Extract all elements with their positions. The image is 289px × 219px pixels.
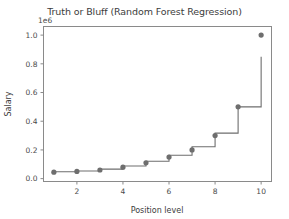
x-tick-label: 8 <box>213 187 218 196</box>
data-point <box>51 170 56 175</box>
x-tick-label: 2 <box>75 187 80 196</box>
regression-step-line <box>54 57 261 172</box>
y-tick-label: 1.0 <box>26 31 38 40</box>
axes-spines <box>44 27 272 182</box>
y-tick-label: 0.6 <box>26 88 38 97</box>
x-axis-title: Position level <box>131 206 184 215</box>
data-point <box>166 155 171 160</box>
y-axis-title: Salary <box>4 91 13 116</box>
data-point <box>143 160 148 165</box>
axes-frame <box>44 27 272 182</box>
x-axis-ticks: 246810 <box>75 182 267 196</box>
y-tick-label: 0.0 <box>26 174 38 183</box>
data-point <box>212 133 217 138</box>
y-tick-label: 0.4 <box>26 117 38 126</box>
data-point <box>236 104 241 109</box>
data-point <box>120 165 125 170</box>
y-tick-label: 0.8 <box>26 60 38 69</box>
x-tick-label: 4 <box>121 187 126 196</box>
x-tick-label: 6 <box>167 187 172 196</box>
y-axis-ticks: 0.00.20.40.60.81.0 <box>26 31 44 184</box>
data-point <box>97 167 102 172</box>
data-points <box>51 33 263 175</box>
data-point <box>189 147 194 152</box>
plot-area: 0.00.20.40.60.81.0 246810 Position level… <box>0 0 289 219</box>
y-tick-label: 0.2 <box>26 146 38 155</box>
data-point <box>74 169 79 174</box>
data-point <box>259 33 264 38</box>
x-tick-label: 10 <box>256 187 266 196</box>
matplotlib-figure: Truth or Bluff (Random Forest Regression… <box>0 0 289 219</box>
